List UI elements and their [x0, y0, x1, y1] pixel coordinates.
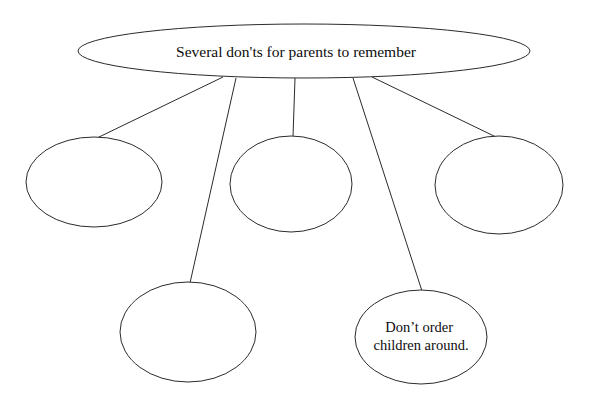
branch-3-node[interactable]	[230, 136, 352, 232]
connector-root-to-branch-2	[190, 78, 236, 283]
connector-root-to-branch-3	[293, 78, 295, 137]
cluster-diagram: Several don'ts for parents to remember D…	[0, 0, 590, 405]
branch-1-ellipse[interactable]	[26, 137, 162, 227]
branch-4-label-line-2: children around.	[373, 337, 468, 353]
branch-3-ellipse[interactable]	[230, 136, 352, 232]
branch-5-node[interactable]	[435, 136, 563, 234]
branch-1-node[interactable]	[26, 137, 162, 227]
branch-2-ellipse[interactable]	[120, 282, 256, 382]
root-topic-label: Several don'ts for parents to remember	[176, 43, 417, 60]
connector-root-to-branch-1	[97, 77, 223, 138]
connector-root-to-branch-4	[353, 78, 422, 291]
branch-4-node[interactable]: Don’t order children around.	[355, 290, 487, 384]
branch-4-label-line-1: Don’t order	[385, 319, 453, 335]
branch-5-ellipse[interactable]	[435, 136, 563, 234]
branch-2-node[interactable]	[120, 282, 256, 382]
diagram-canvas: Several don'ts for parents to remember D…	[0, 0, 590, 405]
root-topic-node[interactable]: Several don'ts for parents to remember	[78, 24, 530, 78]
connector-root-to-branch-5	[372, 77, 496, 137]
